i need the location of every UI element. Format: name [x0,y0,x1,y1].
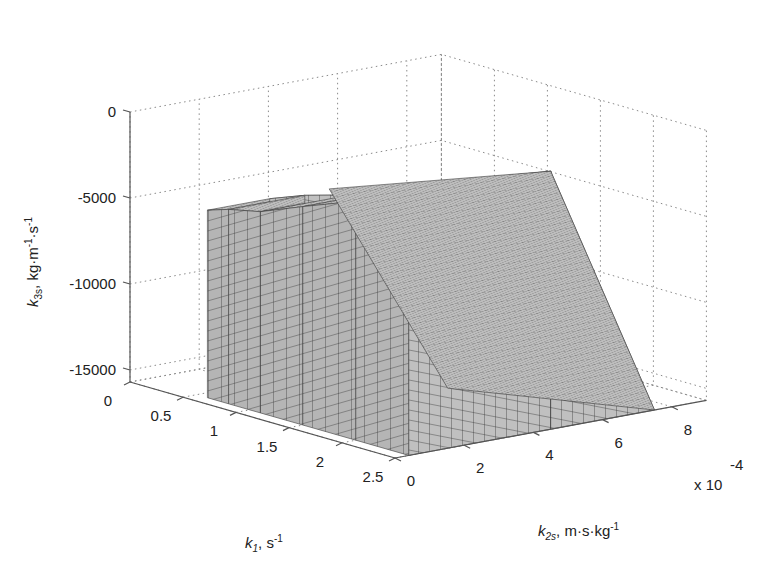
x-tick-label: 1.5 [257,438,278,455]
x-axis-label: k1, s-1 [245,533,283,554]
voxel-front-face [229,209,261,413]
grid-line [130,54,706,130]
x-tick [389,458,395,461]
voxel-front-face [303,201,356,440]
z-tick-label: 0 [108,103,116,120]
x-tick [336,443,342,446]
x-tick [230,412,236,415]
y-tick [603,420,609,423]
x-tick-label: 0 [104,392,112,409]
voxel-front-face [207,209,228,403]
z-tick [123,282,130,284]
svg-text:-4: -4 [730,456,743,473]
svg-text:k3s, kg·m-1·s-1: k3s, kg·m-1·s-1 [23,217,44,307]
z-tick [123,110,130,112]
y-tick-label: 2 [476,459,484,476]
x-tick [124,382,130,385]
y-axis-multiplier: x 10 -4 [694,456,743,493]
x-tick-label: 1 [210,422,218,439]
z-tick [123,196,130,198]
y-tick [672,407,678,410]
x-tick-label: 2 [316,453,324,470]
z-tick-label: -15000 [69,361,116,378]
x-tick-label: 2.5 [363,468,384,485]
svg-text:k2s, m·s·kg-1: k2s, m·s·kg-1 [538,521,620,542]
z-tick [123,368,130,370]
y-tick-label: 6 [614,434,622,451]
svg-text:k1, s-1: k1, s-1 [245,533,283,554]
voxel-3d-chart: 0-5000-10000-1500000.511.522.502468 k3s,… [0,0,758,576]
y-tick [395,458,401,461]
z-tick-label: -5000 [78,189,116,206]
y-tick-label: 0 [407,472,415,489]
y-axis-label: k2s, m·s·kg-1 [538,521,620,542]
y-tick-label: 4 [545,446,553,463]
y-tick-label: 8 [684,421,692,438]
x-tick [177,397,183,400]
voxel-region [207,171,654,455]
x-tick [283,428,289,431]
y-tick [533,432,539,435]
y-tick [464,445,470,448]
z-tick-label: -10000 [69,275,116,292]
svg-text:x 10: x 10 [694,476,722,493]
voxel-front-face [260,207,302,425]
z-axis-label: k3s, kg·m-1·s-1 [23,217,44,307]
x-tick-label: 0.5 [151,407,172,424]
